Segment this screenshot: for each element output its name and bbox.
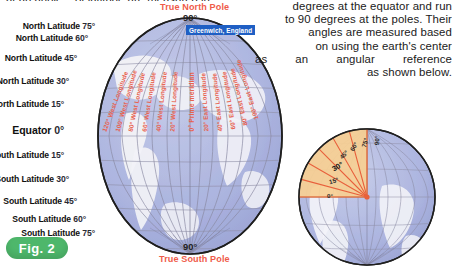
clipped-top-text: at an angle... of latitude are measured … (6, 0, 246, 1)
latitude-text: North Latitude (16, 33, 73, 43)
latitude-value: 30° (56, 76, 69, 86)
latitude-label-n60: North Latitude 60° (16, 33, 88, 43)
paragraph-line: as shown below. (255, 66, 452, 79)
latitude-label-n30: North Latitude 30° (0, 76, 69, 86)
paragraph-line: on using the earth's center (255, 40, 452, 53)
latitude-value: 75° (82, 228, 95, 238)
latitude-text: North Latitude (5, 53, 62, 63)
latitude-text: South Latitude (3, 196, 62, 206)
paragraph-line: as an angular reference (255, 53, 452, 66)
angle-label-0: 0° (327, 192, 333, 199)
paragraph-line: angles are measured based (255, 26, 452, 39)
latitude-value: 30° (56, 174, 69, 184)
greenwich-banner: Greenwich, England (186, 25, 255, 35)
true-north-pole-caption: True North Pole (160, 2, 229, 12)
angle-reference-globe: 0° 15° 30° 45° 60° 75° 90° (296, 126, 446, 269)
paragraph-line: degrees at the equator and run (255, 0, 452, 13)
latitude-text: Equator (12, 124, 51, 136)
true-south-pole-caption: True South Pole (159, 254, 230, 264)
latitude-text: North Latitude (0, 76, 54, 86)
latitude-text: North Latitude (23, 21, 80, 31)
latitude-value: 75° (82, 21, 95, 31)
latitude-label-s30: South Latitude 30° (0, 174, 69, 184)
latitude-value: 0° (54, 124, 64, 136)
latitude-value: 60° (73, 214, 86, 224)
latitude-text: North Latitude (0, 99, 49, 109)
latitude-text: South Latitude (0, 174, 54, 184)
figure-page: at an angle... of latitude are measured … (0, 0, 452, 271)
latitude-label-n45: North Latitude 45° (5, 53, 77, 63)
latitude-text: South Latitude (12, 214, 71, 224)
latitude-label-equator: Equator 0° (12, 124, 64, 136)
south-pole-degree: 90° (183, 241, 197, 252)
longitude-label-prime-meridian: 0° Prime meridian (188, 72, 195, 131)
latitude-label-s60: South Latitude 60° (12, 214, 86, 224)
latitude-text: South Latitude (0, 150, 49, 160)
figure-badge: Fig. 2 (6, 237, 68, 259)
latitude-value: 15° (51, 99, 64, 109)
angle-label-90: 90° (373, 136, 380, 146)
latitude-label-n75: North Latitude 75° (23, 21, 95, 31)
latitude-label-s45: South Latitude 45° (3, 196, 77, 206)
latitude-value: 45° (64, 53, 77, 63)
body-paragraph: degrees at the equator and run to 90 deg… (255, 0, 452, 79)
paragraph-line: to 90 degrees at the poles. Their (255, 13, 452, 26)
north-pole-degree: 90° (183, 12, 197, 23)
latitude-label-s15: South Latitude 15° (0, 150, 64, 160)
latitude-value: 45° (64, 196, 77, 206)
angle-globe-svg (296, 126, 446, 269)
latitude-value: 60° (75, 33, 88, 43)
latitude-value: 15° (51, 150, 64, 160)
latitude-label-n15: North Latitude 15° (0, 99, 64, 109)
